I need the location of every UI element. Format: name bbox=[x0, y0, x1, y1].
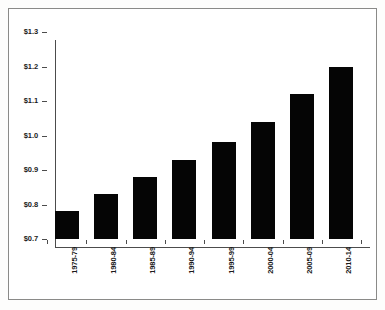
x-axis-tick-label: 2010-14 bbox=[345, 247, 353, 274]
x-axis-tick bbox=[165, 240, 166, 244]
x-axis-tick bbox=[47, 240, 48, 244]
y-axis-tick bbox=[42, 136, 47, 137]
figure-frame: $0.7$0.8$0.9$1.0$1.1$1.2$1.3 1975-791980… bbox=[8, 8, 377, 300]
y-axis-tick-label: $0.9 bbox=[0, 166, 38, 174]
y-axis-tick bbox=[42, 205, 47, 206]
x-axis-tick bbox=[322, 240, 323, 244]
x-axis-tick-label: 1995-99 bbox=[228, 247, 236, 274]
y-axis-tick-label: $1.3 bbox=[0, 28, 38, 36]
y-axis-tick bbox=[42, 67, 47, 68]
y-axis-tick-label: $1.0 bbox=[0, 132, 38, 140]
x-axis-tick-label: 1985-89 bbox=[149, 247, 157, 274]
x-axis-tick-label: 2005-09 bbox=[306, 247, 314, 274]
bar bbox=[94, 194, 118, 239]
bar bbox=[55, 211, 79, 239]
x-axis-tick-label: 1980-84 bbox=[110, 247, 118, 274]
y-axis-tick-label: $0.8 bbox=[0, 201, 38, 209]
y-axis-tick bbox=[42, 170, 47, 171]
bar-chart-figure: $0.7$0.8$0.9$1.0$1.1$1.2$1.3 1975-791980… bbox=[0, 0, 385, 310]
bar bbox=[290, 94, 314, 239]
bar bbox=[172, 160, 196, 239]
bar bbox=[329, 67, 353, 240]
bar bbox=[251, 122, 275, 239]
x-axis-tick-label: 2000-04 bbox=[267, 247, 275, 274]
x-axis-tick-label: 1975-79 bbox=[71, 247, 79, 274]
x-axis-tick-label: 1990-94 bbox=[188, 247, 196, 274]
x-axis-tick bbox=[126, 240, 127, 244]
x-axis-tick bbox=[86, 240, 87, 244]
y-axis-tick-label: $0.7 bbox=[0, 235, 38, 243]
y-axis-tick-label: $1.2 bbox=[0, 63, 38, 71]
bar bbox=[212, 142, 236, 239]
x-axis-tick bbox=[243, 240, 244, 244]
x-axis-tick bbox=[283, 240, 284, 244]
x-axis-tick bbox=[361, 240, 362, 244]
y-axis-tick bbox=[42, 32, 47, 33]
y-axis-tick bbox=[42, 101, 47, 102]
x-axis-line bbox=[55, 247, 370, 248]
x-axis-tick bbox=[204, 240, 205, 244]
bar bbox=[133, 177, 157, 239]
y-axis-tick-label: $1.1 bbox=[0, 97, 38, 105]
